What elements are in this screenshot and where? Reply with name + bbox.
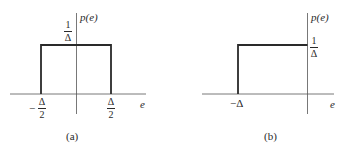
figure-b-x-axis-label: e <box>330 99 335 110</box>
figure-a-left-tick-numerator: Δ <box>39 97 45 107</box>
figure-a-left-tick-label: Δ 2 <box>38 97 46 120</box>
diagram-canvas <box>0 0 340 148</box>
figure-a-caption: (a) <box>66 130 78 142</box>
figure-b-left-tick-label: −Δ <box>230 98 243 109</box>
figure-b-axes <box>202 13 334 114</box>
figure-b-height-label: 1 Δ <box>310 36 318 59</box>
figure-b-height-denominator: Δ <box>311 49 317 59</box>
figure-a-axes <box>10 13 146 114</box>
figure-b-y-axis-label: p(e) <box>311 12 329 23</box>
figure-a-right-tick-label: Δ 2 <box>107 97 115 120</box>
figure-a-pdf-rectangle <box>41 45 111 94</box>
figure-a-height-label: 1 Δ <box>64 20 72 43</box>
figure-a-right-tick-denominator: 2 <box>109 110 114 120</box>
figure-a-right-tick-numerator: Δ <box>108 97 114 107</box>
figure-a-height-denominator: Δ <box>65 33 71 43</box>
figure-a-x-axis-label: e <box>140 99 145 110</box>
figure-a-height-numerator: 1 <box>66 20 71 30</box>
figure-a-left-tick-sign: − <box>29 103 35 114</box>
figure-b-caption: (b) <box>264 130 277 142</box>
figure-a-left-tick-denominator: 2 <box>40 110 45 120</box>
figure-b-height-numerator: 1 <box>312 36 317 46</box>
figure-b-pdf-rectangle <box>238 45 308 94</box>
figure-a-y-axis-label: p(e) <box>80 12 98 23</box>
